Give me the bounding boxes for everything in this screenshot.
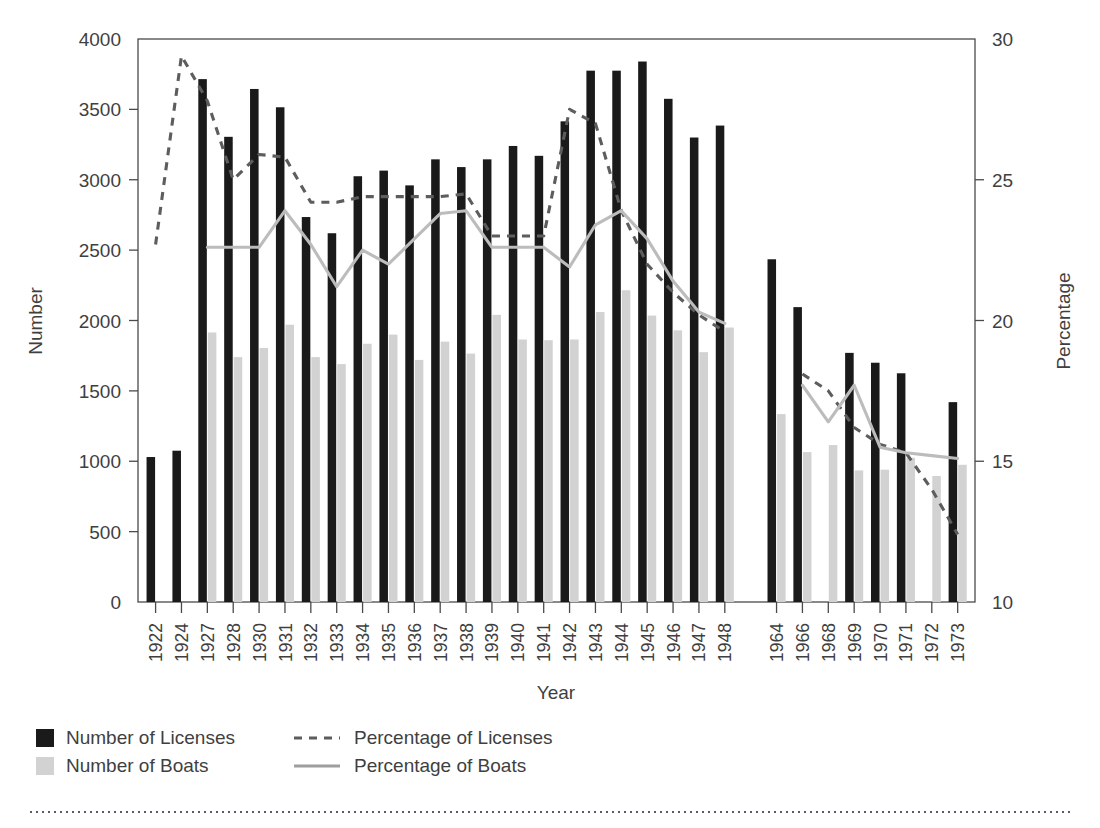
x-tick-label-1936: 1936 (405, 623, 425, 662)
bar-boats (208, 332, 217, 602)
bar-licenses (871, 363, 880, 602)
x-tick-label-1972: 1972 (922, 623, 942, 662)
y-right-tick-label: 15 (992, 451, 1013, 472)
bar-boats (881, 470, 890, 602)
bar-boats (544, 340, 553, 602)
y-left-tick-label: 1500 (79, 381, 121, 402)
x-tick-label-1931: 1931 (276, 623, 296, 662)
bar-licenses (561, 121, 570, 602)
x-tick-label-1922: 1922 (146, 623, 166, 662)
bar-boats (492, 315, 501, 602)
x-tick-label-1943: 1943 (586, 623, 606, 662)
y-left-tick-label: 1000 (79, 451, 121, 472)
y-left-tick-label: 3000 (79, 170, 121, 191)
x-tick-label-1928: 1928 (224, 623, 244, 662)
y-axis-right-title: Percentage (1053, 272, 1074, 369)
x-tick-label-1938: 1938 (457, 623, 477, 662)
legend-label: Number of Boats (66, 755, 209, 776)
x-tick-label-1947: 1947 (689, 623, 709, 662)
bar-boats (415, 360, 424, 602)
x-tick-label-1932: 1932 (301, 623, 321, 662)
x-tick-label-1944: 1944 (612, 623, 632, 662)
y-right-tick-label: 20 (992, 311, 1013, 332)
legend-item: Number of Licenses (36, 727, 235, 748)
x-tick-label-1933: 1933 (327, 623, 347, 662)
bar-boats (467, 354, 476, 602)
bar-boats (570, 340, 579, 602)
x-tick-label-1942: 1942 (560, 623, 580, 662)
bar-boats (958, 465, 967, 602)
bar-boats (260, 348, 269, 602)
bar-boats (337, 364, 346, 602)
bar-boats (699, 352, 708, 602)
bar-licenses (509, 146, 518, 602)
bar-licenses (224, 137, 233, 602)
bar-boats (855, 470, 864, 602)
bar-boats (777, 414, 786, 602)
y-left-tick-label: 3500 (79, 99, 121, 120)
y-left-tick-label: 2000 (79, 311, 121, 332)
x-tick-label-1946: 1946 (664, 623, 684, 662)
x-tick-label-1939: 1939 (482, 623, 502, 662)
bar-boats (648, 316, 657, 602)
y-right-tick-label: 10 (992, 592, 1013, 613)
bar-licenses (302, 217, 311, 602)
bar-boats (596, 312, 605, 602)
bar-boats (363, 344, 372, 602)
x-tick-label-1941: 1941 (534, 623, 554, 662)
bar-licenses (147, 457, 156, 602)
bar-licenses (379, 171, 388, 602)
bar-boats (285, 325, 294, 602)
legend-swatch (36, 757, 54, 775)
legend-label: Percentage of Boats (354, 755, 526, 776)
bar-licenses (457, 167, 466, 602)
x-tick-label-1937: 1937 (431, 623, 451, 662)
x-tick-label-1973: 1973 (948, 623, 968, 662)
x-tick-label-1964: 1964 (767, 623, 787, 662)
x-tick-label-1935: 1935 (379, 623, 399, 662)
bar-licenses (664, 99, 673, 602)
bar-licenses (949, 402, 958, 602)
bar-licenses (276, 107, 285, 602)
bar-licenses (328, 233, 337, 602)
bar-licenses (638, 62, 647, 602)
bar-boats (311, 357, 320, 602)
legend-label: Percentage of Licenses (354, 727, 553, 748)
bar-licenses (354, 176, 363, 602)
y-left-tick-label: 0 (110, 592, 121, 613)
y-right-tick-label: 25 (992, 170, 1013, 191)
y-left-tick-label: 500 (89, 522, 121, 543)
x-tick-label-1934: 1934 (353, 623, 373, 662)
y-left-tick-label: 4000 (79, 29, 121, 50)
legend-label: Number of Licenses (66, 727, 235, 748)
bar-boats (725, 328, 734, 602)
bar-boats (829, 445, 838, 602)
x-tick-label-1966: 1966 (793, 623, 813, 662)
bar-licenses (793, 307, 802, 602)
x-tick-label-1930: 1930 (250, 623, 270, 662)
x-tick-label-1971: 1971 (896, 623, 916, 662)
bar-licenses (690, 138, 699, 602)
bar-boats (441, 342, 450, 602)
bar-licenses (198, 79, 207, 602)
bar-licenses (431, 159, 440, 602)
x-tick-label-1969: 1969 (845, 623, 865, 662)
bar-licenses (768, 259, 777, 602)
bar-boats (906, 458, 915, 602)
bar-boats (234, 357, 243, 602)
bar-licenses (250, 89, 259, 602)
chart-figure: 05001000150020002500300035004000 1015202… (0, 0, 1100, 828)
x-axis-title: Year (537, 682, 576, 703)
x-tick-label-1927: 1927 (198, 623, 218, 662)
x-tick-label-1948: 1948 (715, 623, 735, 662)
bar-licenses (535, 156, 544, 602)
bar-licenses (172, 451, 181, 602)
bar-licenses (716, 126, 725, 602)
x-tick-label-1940: 1940 (508, 623, 528, 662)
y-left-tick-label: 2500 (79, 240, 121, 261)
bar-boats (389, 335, 398, 602)
bar-boats (518, 340, 527, 602)
x-tick-label-1968: 1968 (819, 623, 839, 662)
bar-boats (622, 290, 631, 602)
legend-swatch (36, 729, 54, 747)
